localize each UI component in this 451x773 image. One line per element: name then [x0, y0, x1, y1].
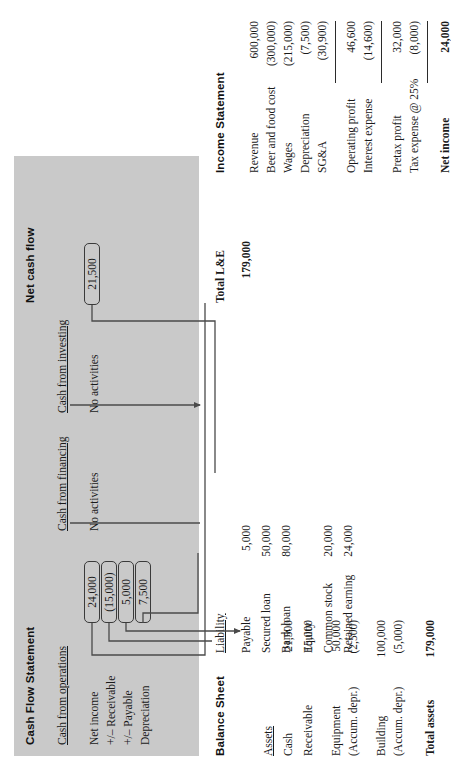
income-statement-title: Income Statement	[214, 72, 226, 173]
asset-label-2: Equipment	[330, 706, 342, 756]
is-net-income-value: 24,000	[439, 21, 451, 83]
subtotal-rule	[427, 21, 428, 83]
total-assets-label: Total assets	[424, 700, 436, 756]
total-assets-value: 179,000	[424, 620, 436, 678]
is-row-label-3: Depreciation	[299, 114, 311, 173]
asset-value-4: 100,000	[375, 620, 387, 678]
asset-value-1: 15,000	[302, 620, 314, 678]
asset-value-0: 21,500	[282, 620, 294, 678]
asset-value-5: (5,000)	[392, 620, 404, 678]
is-row-value-2: (215,000)	[282, 21, 294, 83]
is-subtotal1-value-0: 46,600	[345, 21, 357, 83]
is-subtotal2-label-0: Pretax profit	[391, 115, 403, 173]
is-row-label-2: Wages	[282, 143, 294, 173]
is-subtotal2-value-0: 32,000	[391, 21, 403, 83]
subtotal-rule	[335, 21, 336, 83]
is-subtotal1-value-1: (14,600)	[362, 21, 374, 83]
asset-label-4: Building	[375, 716, 387, 756]
is-subtotal1-label-1: Interest expense	[362, 99, 374, 173]
asset-value-2: 50,000	[330, 620, 342, 678]
is-row-value-0: 600,000	[248, 21, 260, 83]
is-row-label-0: Revenue	[248, 133, 260, 173]
asset-value-3: (2,500)	[347, 620, 359, 678]
is-net-income-label: Net income	[439, 118, 451, 173]
is-row-value-4: (30,900)	[316, 21, 328, 83]
is-row-label-4: SG&A	[316, 141, 328, 173]
is-row-value-3: (7,500)	[299, 21, 311, 83]
is-subtotal2-label-1: Tax expense @ 25%	[408, 79, 420, 173]
is-row-value-1: (300,000)	[265, 21, 277, 83]
subtotal-rule	[381, 21, 382, 83]
is-row-label-1: Beer and food cost	[265, 86, 277, 173]
is-subtotal1-label-0: Operating profit	[345, 99, 357, 173]
asset-label-5: (Accum. depr.)	[392, 687, 404, 756]
is-subtotal2-value-1: (8,000)	[408, 21, 420, 83]
asset-label-3: (Accum. depr.)	[347, 687, 359, 756]
